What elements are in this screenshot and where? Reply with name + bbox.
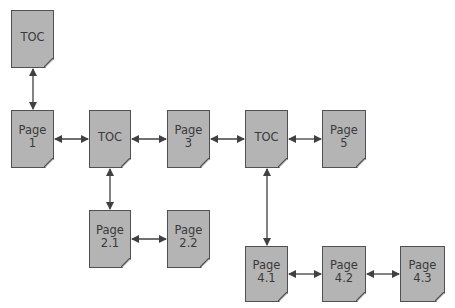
page-node-page-2-1: Page 2.1: [89, 210, 131, 268]
node-label: Page 4.3: [409, 259, 437, 289]
page-node-page-1: Page 1: [11, 110, 54, 168]
node-label: Page 5: [330, 124, 358, 154]
page-node-page-3: Page 3: [167, 110, 210, 168]
node-label: TOC: [254, 131, 278, 148]
node-label: TOC: [20, 31, 44, 48]
page-node-toc-top: TOC: [11, 10, 54, 68]
node-label: Page 1: [19, 124, 47, 154]
page-node-page-4-1: Page 4.1: [245, 246, 288, 302]
connector-layer: [0, 0, 455, 308]
page-node-page-2-2: Page 2.2: [167, 210, 210, 268]
page-node-toc-2: TOC: [89, 110, 131, 168]
page-node-page-5: Page 5: [322, 110, 366, 168]
node-label: Page 3: [175, 124, 203, 154]
node-label: Page 2.1: [96, 224, 124, 254]
page-node-page-4-3: Page 4.3: [400, 246, 445, 302]
page-node-page-4-2: Page 4.2: [322, 246, 366, 302]
node-label: Page 4.1: [253, 259, 281, 289]
node-label: Page 4.2: [330, 259, 358, 289]
page-node-toc-4: TOC: [245, 110, 288, 168]
site-structure-diagram: TOCPage 1TOCPage 3TOCPage 5Page 2.1Page …: [0, 0, 455, 308]
node-label: Page 2.2: [175, 224, 203, 254]
node-label: TOC: [98, 131, 122, 148]
